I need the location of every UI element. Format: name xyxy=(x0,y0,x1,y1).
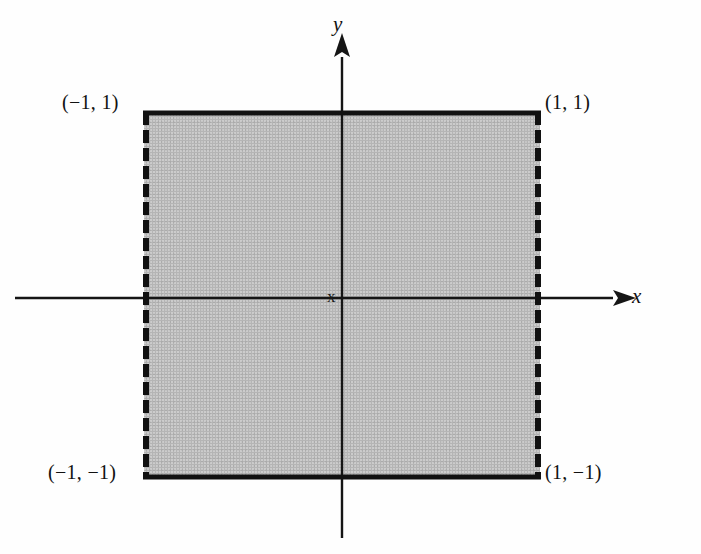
corner-label-bottom-left: (−1, −1) xyxy=(48,462,116,482)
y-axis-label: y xyxy=(333,14,342,35)
origin-marker-label: x xyxy=(327,288,336,305)
corner-label-bottom-right: (1, −1) xyxy=(545,462,602,482)
x-axis-label: x xyxy=(632,286,641,307)
corner-label-top-left: (−1, 1) xyxy=(62,92,119,112)
corner-label-top-right: (1, 1) xyxy=(545,92,590,112)
figure-canvas: (−1, 1) (1, 1) (−1, −1) (1, −1) y x x xyxy=(0,0,701,554)
